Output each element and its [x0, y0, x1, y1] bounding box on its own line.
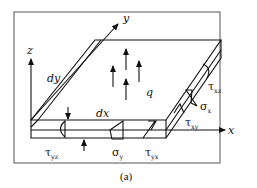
sigma-y-label: σy [112, 146, 124, 161]
dx-label: dx [96, 107, 110, 120]
sigma-x-label: σx [200, 100, 212, 115]
tau-yx-label: τyx [145, 146, 159, 161]
tau-yz-label: τyz [45, 146, 59, 161]
tau-xy-label: τxy [185, 116, 199, 131]
tau-xz-distribution [203, 64, 209, 78]
plate-element-diagram: z y x dy dx q τyz σy τyx τxz σx τxy (a) [0, 0, 257, 188]
y-axis-label: y [122, 12, 130, 25]
y-axis [31, 24, 118, 120]
load-arrows [113, 49, 139, 100]
dy-label: dy [47, 72, 61, 85]
load-label: q [146, 86, 153, 99]
tau-yz-distribution [61, 121, 66, 137]
z-axis-label: z [26, 44, 33, 57]
figure-frame [14, 12, 220, 163]
figure-caption: (a) [120, 170, 133, 183]
x-axis-label: x [228, 124, 235, 137]
